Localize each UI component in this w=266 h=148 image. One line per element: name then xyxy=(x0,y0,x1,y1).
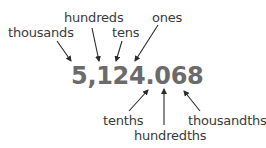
arrows-layer xyxy=(0,0,266,148)
arrow-thousandths-icon xyxy=(184,91,200,111)
arrow-hundreds-icon xyxy=(92,28,99,61)
arrow-ones-icon xyxy=(135,25,158,61)
arrow-tens-icon xyxy=(116,41,122,61)
arrow-thousands-icon xyxy=(57,41,71,61)
arrow-tenths-icon xyxy=(129,90,148,111)
